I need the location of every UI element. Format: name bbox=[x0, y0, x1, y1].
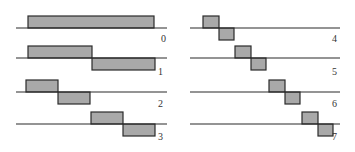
negative-pulse bbox=[285, 92, 300, 104]
basis-function-1: 1 bbox=[16, 46, 167, 77]
positive-pulse bbox=[28, 16, 154, 28]
negative-pulse bbox=[92, 58, 155, 70]
function-index-label: 5 bbox=[332, 66, 337, 77]
negative-pulse bbox=[318, 124, 333, 136]
haar-basis-diagram: 01234567 bbox=[0, 0, 355, 152]
positive-pulse bbox=[28, 46, 92, 58]
positive-pulse bbox=[302, 112, 318, 124]
basis-function-5: 5 bbox=[190, 46, 340, 77]
positive-pulse bbox=[269, 80, 285, 92]
positive-pulse bbox=[91, 112, 123, 124]
basis-function-3: 3 bbox=[16, 112, 167, 142]
positive-pulse bbox=[235, 46, 251, 58]
function-index-label: 0 bbox=[161, 33, 166, 44]
function-index-label: 6 bbox=[332, 98, 337, 109]
positive-pulse bbox=[203, 16, 219, 28]
function-index-label: 7 bbox=[332, 131, 337, 142]
negative-pulse bbox=[251, 58, 266, 70]
negative-pulse bbox=[123, 124, 155, 136]
positive-pulse bbox=[26, 80, 58, 92]
function-index-label: 2 bbox=[158, 98, 163, 109]
basis-function-7: 7 bbox=[190, 112, 340, 142]
basis-function-2: 2 bbox=[16, 80, 167, 109]
negative-pulse bbox=[58, 92, 90, 104]
basis-function-0: 0 bbox=[16, 16, 167, 44]
function-index-label: 1 bbox=[158, 66, 163, 77]
basis-function-6: 6 bbox=[190, 80, 340, 109]
function-index-label: 3 bbox=[158, 131, 163, 142]
function-index-label: 4 bbox=[332, 33, 337, 44]
negative-pulse bbox=[219, 28, 234, 40]
basis-function-4: 4 bbox=[190, 16, 340, 44]
